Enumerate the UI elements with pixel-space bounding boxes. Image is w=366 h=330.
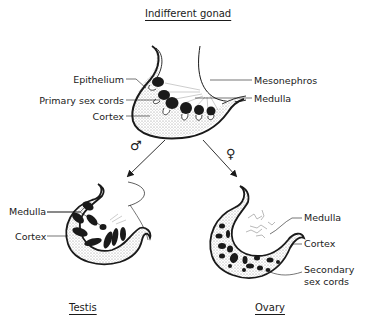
label-ovary-cortex: Cortex	[304, 238, 335, 249]
mesonephros-outline	[199, 46, 246, 102]
label-medulla-top: Medulla	[254, 93, 291, 104]
male-symbol: ♂	[130, 140, 142, 151]
label-cortex-top: Cortex	[93, 111, 124, 122]
title-ovary: Ovary	[255, 302, 285, 313]
label-ovary-secondary-line2: sex cords	[304, 276, 349, 287]
label-epithelium: Epithelium	[73, 74, 124, 85]
label-primary-sex-cords: Primary sex cords	[39, 95, 124, 106]
title-testis: Testis	[69, 302, 97, 313]
ovary-drawing	[210, 186, 304, 278]
indifferent-gonad-body	[132, 47, 242, 136]
ovary-cortex	[210, 186, 304, 278]
label-ovary-secondary-line1: Secondary	[304, 264, 354, 275]
title-indifferent-gonad: Indifferent gonad	[145, 8, 231, 19]
label-testis-medulla: Medulla	[9, 206, 46, 217]
label-testis-cortex: Cortex	[15, 231, 46, 242]
testis-drawing	[66, 182, 150, 264]
indifferent-gonad-drawing	[132, 46, 246, 138]
testis-cortex	[66, 184, 150, 264]
label-ovary-medulla: Medulla	[304, 212, 341, 223]
label-mesonephros: Mesonephros	[254, 75, 317, 86]
female-symbol: ♀	[226, 148, 236, 159]
